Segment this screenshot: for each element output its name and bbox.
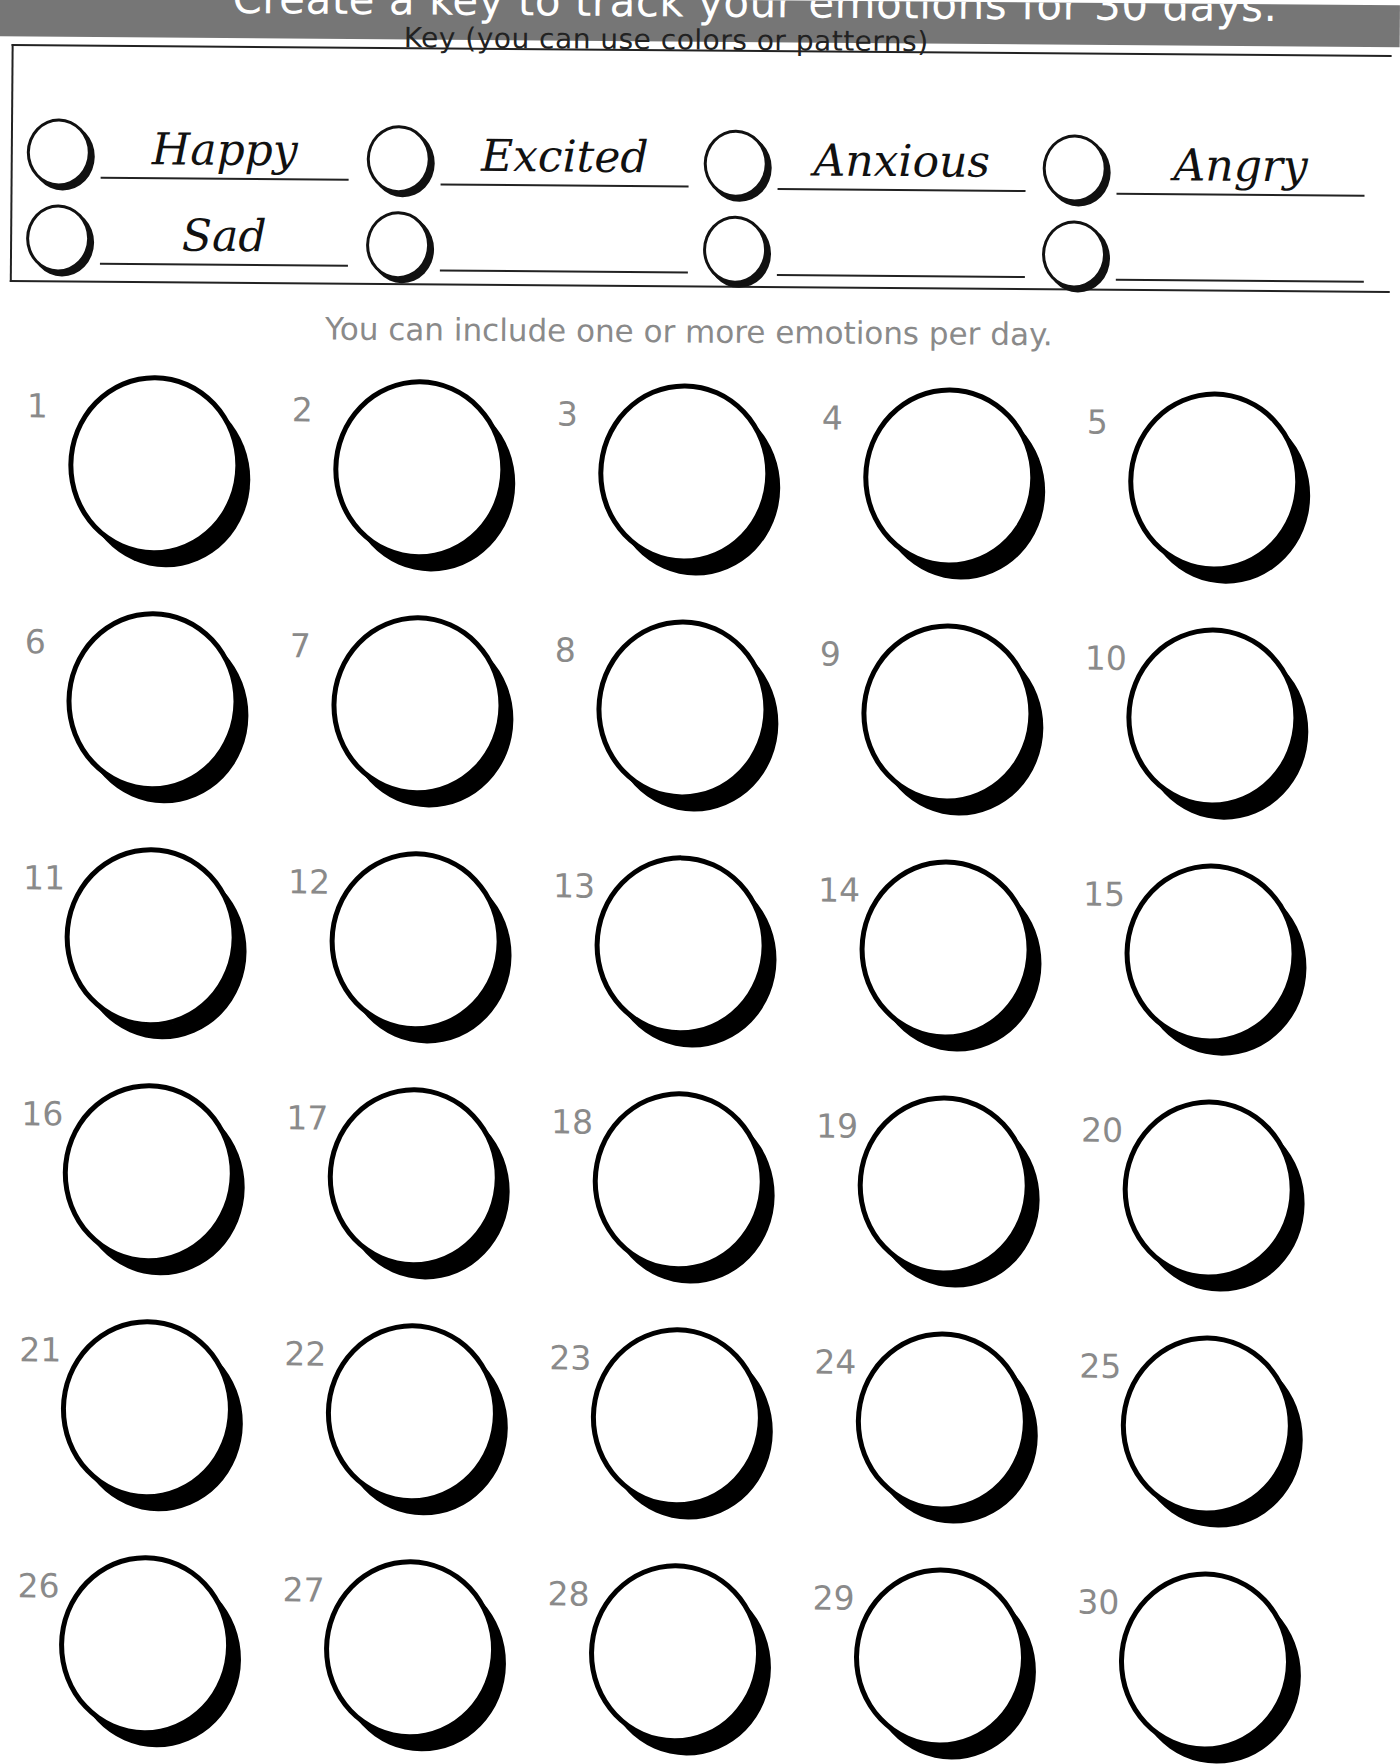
day-circle-icon[interactable] (325, 1323, 498, 1504)
day-number: 22 (284, 1334, 326, 1373)
key-label[interactable]: Excited (441, 129, 689, 182)
day-circle-icon[interactable] (68, 375, 241, 556)
key-item-anxious[interactable]: Anxious (695, 119, 1026, 202)
day-27[interactable]: 27 (281, 1552, 503, 1764)
key-underline[interactable] (440, 269, 688, 273)
day-4[interactable]: 4 (820, 380, 1042, 602)
day-23[interactable]: 23 (548, 1320, 770, 1542)
day-circle-icon[interactable] (598, 383, 771, 564)
day-1[interactable]: 1 (25, 368, 247, 590)
day-circle-icon[interactable] (588, 1563, 761, 1744)
day-circle-icon[interactable] (861, 623, 1034, 804)
day-17[interactable]: 17 (285, 1080, 507, 1302)
day-number: 1 (27, 386, 48, 425)
key-item-sad[interactable]: Sad (18, 194, 349, 277)
day-14[interactable]: 14 (817, 852, 1039, 1074)
day-2[interactable]: 2 (290, 372, 512, 594)
day-3[interactable]: 3 (555, 376, 777, 598)
day-number: 12 (288, 862, 330, 901)
key-circle-icon[interactable] (366, 211, 431, 280)
day-7[interactable]: 7 (289, 608, 511, 830)
day-circle-icon[interactable] (1120, 1335, 1293, 1516)
key-item-blank-3[interactable] (1034, 210, 1365, 293)
day-15[interactable]: 15 (1082, 857, 1304, 1079)
key-circle-icon[interactable] (1042, 220, 1107, 289)
day-circle-icon[interactable] (327, 1087, 500, 1268)
key-label[interactable]: Sad (100, 209, 348, 262)
day-number: 9 (820, 634, 841, 673)
day-circle-icon[interactable] (1126, 627, 1299, 808)
day-number: 8 (555, 630, 576, 669)
day-9[interactable]: 9 (818, 616, 1040, 838)
key-item-happy[interactable]: Happy (19, 108, 350, 191)
day-circle-icon[interactable] (853, 1567, 1026, 1748)
day-number: 28 (547, 1574, 589, 1613)
day-number: 26 (17, 1566, 59, 1605)
day-29[interactable]: 29 (811, 1560, 1033, 1764)
day-circle-icon[interactable] (1118, 1571, 1291, 1752)
key-item-angry[interactable]: Angry (1034, 124, 1365, 207)
day-5[interactable]: 5 (1085, 385, 1307, 607)
day-10[interactable]: 10 (1083, 621, 1305, 843)
key-label[interactable] (777, 220, 1025, 222)
key-circle-icon[interactable] (366, 125, 431, 194)
key-label[interactable]: Happy (101, 123, 349, 176)
key-item-blank-1[interactable] (358, 201, 689, 284)
day-13[interactable]: 13 (552, 848, 774, 1070)
key-circle-icon[interactable] (703, 130, 768, 199)
day-circle-icon[interactable] (855, 1331, 1028, 1512)
day-number: 21 (19, 1330, 61, 1369)
key-circle-icon[interactable] (1042, 134, 1107, 203)
day-circle-icon[interactable] (64, 847, 237, 1028)
day-number: 4 (822, 398, 843, 437)
day-8[interactable]: 8 (553, 612, 775, 834)
day-24[interactable]: 24 (813, 1324, 1035, 1546)
day-6[interactable]: 6 (24, 604, 246, 826)
day-circle-icon[interactable] (590, 1327, 763, 1508)
key-item-blank-2[interactable] (695, 205, 1026, 288)
day-circle-icon[interactable] (1122, 1099, 1295, 1280)
key-item-excited[interactable]: Excited (358, 115, 689, 198)
day-12[interactable]: 12 (287, 844, 509, 1066)
day-30[interactable]: 30 (1076, 1565, 1298, 1764)
day-circle-icon[interactable] (859, 859, 1032, 1040)
day-circle-icon[interactable] (66, 611, 239, 792)
key-label[interactable] (1116, 225, 1364, 227)
day-16[interactable]: 16 (20, 1076, 242, 1298)
day-number: 11 (23, 858, 65, 897)
day-circle-icon[interactable] (857, 1095, 1030, 1276)
day-19[interactable]: 19 (815, 1088, 1037, 1310)
instructions: You can include one or more emotions per… (0, 308, 1361, 355)
day-circle-icon[interactable] (323, 1559, 496, 1740)
day-circle-icon[interactable] (594, 855, 767, 1036)
day-circle-icon[interactable] (329, 851, 502, 1032)
day-circle-icon[interactable] (592, 1091, 765, 1272)
day-circle-icon[interactable] (1128, 391, 1301, 572)
key-label[interactable]: Angry (1117, 139, 1365, 192)
key-circle-icon[interactable] (27, 118, 92, 187)
day-20[interactable]: 20 (1080, 1093, 1302, 1315)
key-underline[interactable] (1116, 279, 1364, 283)
day-circle-icon[interactable] (333, 379, 506, 560)
day-18[interactable]: 18 (550, 1084, 772, 1306)
day-25[interactable]: 25 (1078, 1329, 1300, 1551)
day-circle-icon[interactable] (596, 619, 769, 800)
key-label[interactable] (440, 215, 688, 217)
day-11[interactable]: 11 (22, 840, 244, 1062)
day-circle-icon[interactable] (331, 615, 504, 796)
key-circle-icon[interactable] (26, 204, 91, 273)
day-22[interactable]: 22 (283, 1316, 505, 1538)
key-circle-icon[interactable] (703, 216, 768, 285)
day-circle-icon[interactable] (60, 1319, 233, 1500)
day-28[interactable]: 28 (546, 1556, 768, 1764)
day-26[interactable]: 26 (16, 1548, 238, 1764)
day-circle-icon[interactable] (58, 1555, 231, 1736)
day-circle-icon[interactable] (1124, 863, 1297, 1044)
day-21[interactable]: 21 (18, 1312, 240, 1534)
key-underline (778, 188, 1026, 192)
key-underline[interactable] (777, 274, 1025, 278)
key-label[interactable]: Anxious (778, 134, 1026, 187)
day-circle-icon[interactable] (62, 1083, 235, 1264)
day-circle-icon[interactable] (863, 387, 1036, 568)
day-number: 13 (553, 866, 595, 905)
